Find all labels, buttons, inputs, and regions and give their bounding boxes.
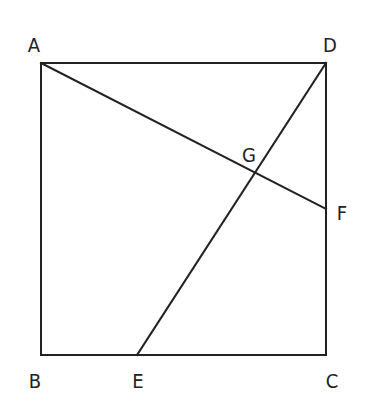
label-b: B (29, 371, 41, 391)
diagram-canvas (0, 0, 372, 407)
label-g: G (242, 145, 256, 165)
geometry-diagram: A D G F B E C (0, 0, 372, 407)
label-f: F (337, 203, 347, 223)
label-c: C (326, 371, 339, 391)
label-d: D (323, 35, 337, 55)
segment-af (41, 63, 326, 209)
segment-de (137, 63, 326, 355)
label-a: A (28, 35, 40, 55)
label-e: E (132, 371, 143, 391)
